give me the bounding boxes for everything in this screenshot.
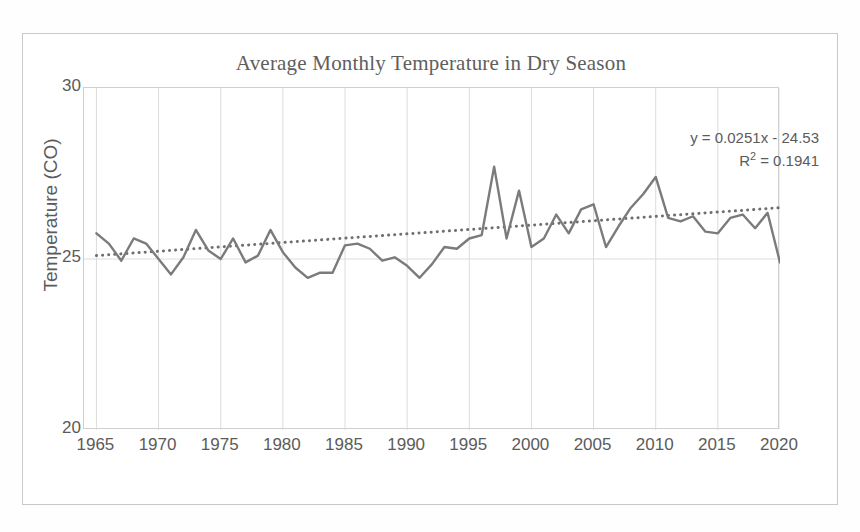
rsquared-value: = 0.1941 — [756, 152, 819, 169]
x-tick-label: 2020 — [749, 435, 809, 455]
chart-plot-svg — [84, 88, 780, 430]
chart-frame: Average Monthly Temperature in Dry Seaso… — [22, 33, 838, 505]
x-tick-label: 1970 — [128, 435, 188, 455]
y-axis-tick-labels: 302520 — [29, 87, 81, 429]
chart-page: Average Monthly Temperature in Dry Seaso… — [0, 0, 860, 532]
chart-title: Average Monthly Temperature in Dry Seaso… — [23, 51, 839, 76]
trendline-equation-line: y = 0.0251x - 24.53 — [690, 127, 819, 149]
trendline-series — [96, 208, 780, 256]
x-tick-label: 1975 — [190, 435, 250, 455]
x-tick-label: 2005 — [563, 435, 623, 455]
x-tick-label: 1980 — [252, 435, 312, 455]
temperature-data-series — [96, 167, 780, 278]
x-tick-label: 2015 — [687, 435, 747, 455]
x-tick-label: 2000 — [500, 435, 560, 455]
x-axis-tick-labels: 1965197019751980198519901995200020052010… — [83, 435, 779, 465]
x-tick-label: 1990 — [376, 435, 436, 455]
x-tick-label: 2010 — [625, 435, 685, 455]
y-tick-label: 30 — [41, 76, 81, 96]
y-tick-label: 25 — [41, 247, 81, 267]
rsquared-letter: R — [739, 152, 750, 169]
x-tick-label: 1995 — [438, 435, 498, 455]
trendline-equation-annotation: y = 0.0251x - 24.53 R2 = 0.1941 — [690, 127, 819, 172]
trendline-rsquared-line: R2 = 0.1941 — [690, 149, 819, 172]
x-tick-label: 1965 — [65, 435, 125, 455]
x-tick-label: 1985 — [314, 435, 374, 455]
plot-area — [83, 87, 779, 429]
